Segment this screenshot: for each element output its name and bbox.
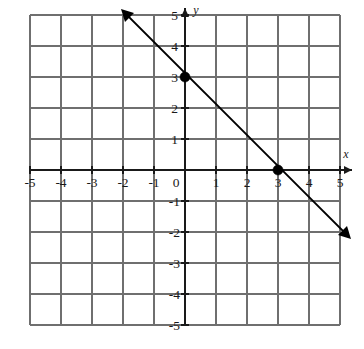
x-tick-label: -3 bbox=[86, 175, 97, 190]
x-tick-label: 4 bbox=[306, 175, 313, 190]
y-tick-label: -3 bbox=[169, 256, 180, 271]
x-tick-label: -5 bbox=[24, 175, 35, 190]
x-tick-label: 2 bbox=[244, 175, 251, 190]
x-tick-label: 3 bbox=[275, 175, 282, 190]
x-tick-label: 1 bbox=[213, 175, 220, 190]
x-tick-label: -4 bbox=[55, 175, 66, 190]
y-tick-label: -2 bbox=[169, 225, 180, 240]
y-tick-label: 5 bbox=[171, 8, 178, 23]
y-tick-label: 4 bbox=[171, 39, 178, 54]
y-tick-label: -1 bbox=[169, 194, 180, 209]
y-tick-label: 1 bbox=[171, 132, 178, 147]
coordinate-plane-svg: -5 -4 -3 -2 -1 1 2 3 4 5 0 5 4 3 2 1 -1 … bbox=[0, 0, 364, 349]
x-tick-label: -1 bbox=[148, 175, 159, 190]
plotted-points bbox=[180, 72, 283, 175]
y-tick-label: -5 bbox=[169, 318, 180, 333]
y-tick-label: -4 bbox=[169, 287, 180, 302]
x-axis bbox=[30, 166, 352, 174]
y-tick-label: 3 bbox=[171, 70, 178, 85]
y-axis-label: y bbox=[192, 3, 199, 17]
point-marker-y-intercept bbox=[180, 72, 190, 82]
point-marker-x-intercept bbox=[273, 165, 283, 175]
y-axis bbox=[181, 8, 189, 325]
coordinate-plane-figure: -5 -4 -3 -2 -1 1 2 3 4 5 0 5 4 3 2 1 -1 … bbox=[0, 0, 364, 349]
x-tick-label: -2 bbox=[117, 175, 128, 190]
plotted-line bbox=[121, 9, 351, 239]
x-tick-label: 5 bbox=[337, 175, 344, 190]
y-tick-label: 2 bbox=[171, 101, 178, 116]
x-axis-label: x bbox=[342, 147, 349, 161]
origin-label: 0 bbox=[173, 175, 180, 190]
